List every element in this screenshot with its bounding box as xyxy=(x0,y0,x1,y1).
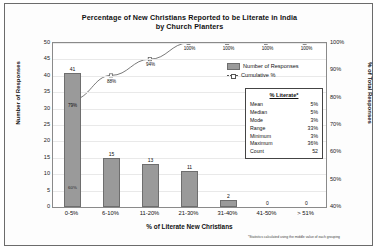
cumulative-label-0: 79% xyxy=(68,103,77,108)
y-tick-right-90: 90% xyxy=(330,66,356,72)
stats-value-5: 36% xyxy=(297,140,319,148)
bar-value-label-6: 0 xyxy=(305,200,308,206)
x-axis-title: % of Literate New Christians xyxy=(52,223,327,230)
cumulative-label-1: 88% xyxy=(107,79,116,84)
stats-label-1: Median xyxy=(250,109,297,117)
y-tick-left-0: 0 xyxy=(25,203,50,209)
statistics-table-header: % Literate* xyxy=(250,92,318,98)
chart-frame: Percentage of New Christians Reported to… xyxy=(4,3,373,246)
bar-value-label-3: 11 xyxy=(187,164,192,170)
legend-item-responses: Number of Responses xyxy=(227,62,325,71)
stats-row: Range33% xyxy=(250,124,318,132)
bar-1 xyxy=(103,158,121,207)
bar-value-label-1: 15 xyxy=(109,151,115,157)
stats-label-2: Mode xyxy=(250,117,297,125)
y-axis-left-title: Number of Responses xyxy=(15,38,21,148)
y-tick-left-35: 35 xyxy=(25,88,50,94)
x-tick-0: 0-5% xyxy=(65,210,79,216)
stats-value-3: 33% xyxy=(297,124,319,132)
stats-value-1: 5% xyxy=(297,109,319,117)
stats-row: Mean5% xyxy=(250,101,318,109)
chart-title-line-1: Percentage of New Christians Reported to… xyxy=(82,13,297,22)
cumulative-label-2: 94% xyxy=(146,62,155,67)
statistics-table-body: Mean5%Median5%Mode3%Range33%Minimum3%Max… xyxy=(250,101,318,155)
y-tick-left-25: 25 xyxy=(25,121,50,127)
cumulative-label-6: 100% xyxy=(301,46,313,51)
y-tick-left-15: 15 xyxy=(25,154,50,160)
bar-value-label-2: 13 xyxy=(148,157,154,163)
bar-2 xyxy=(142,164,160,207)
y-tick-left-10: 10 xyxy=(25,170,50,176)
stats-value-2: 3% xyxy=(297,117,319,125)
stats-row: Median5% xyxy=(250,109,318,117)
x-tick-2: 11-20% xyxy=(140,210,160,216)
stats-row: Maximum36% xyxy=(250,140,318,148)
y-tick-right-50: 50% xyxy=(330,176,356,182)
y-tick-right-80: 80% xyxy=(330,94,356,100)
x-tick-3: 21-30% xyxy=(179,210,199,216)
legend-bar-swatch-icon xyxy=(227,63,240,70)
y-axis-left: 05101520253035404550 xyxy=(25,42,50,208)
bar-3 xyxy=(181,171,199,207)
bar-value-label-5: 0 xyxy=(266,200,269,206)
stats-row: Minimum3% xyxy=(250,132,318,140)
y-tick-right-40: 40% xyxy=(330,203,356,209)
chart-title: Percentage of New Christians Reported to… xyxy=(5,13,374,31)
gridline xyxy=(53,43,326,44)
stats-label-3: Range xyxy=(250,124,297,132)
stats-value-0: 5% xyxy=(297,101,319,109)
cumulative-label-4: 100% xyxy=(223,46,235,51)
y-tick-left-30: 30 xyxy=(25,105,50,111)
y-tick-left-20: 20 xyxy=(25,137,50,143)
stats-label-5: Maximum xyxy=(250,140,297,148)
cumulative-label-5: 100% xyxy=(262,46,274,51)
stats-label-0: Mean xyxy=(250,101,297,109)
y-tick-left-45: 45 xyxy=(25,55,50,61)
y-tick-right-70: 70% xyxy=(330,121,356,127)
chart-legend: Number of Responses Cumulative % xyxy=(227,62,325,80)
chart-title-line-2: by Church Planters xyxy=(156,22,224,31)
stats-value-4: 3% xyxy=(297,132,319,140)
bar-4 xyxy=(220,200,238,207)
y-tick-left-50: 50 xyxy=(25,39,50,45)
x-tick-4: 31-40% xyxy=(218,210,238,216)
statistics-table: % Literate* Mean5%Median5%Mode3%Range33%… xyxy=(245,88,323,159)
y-tick-right-60: 60% xyxy=(330,148,356,154)
stats-label-6: Count xyxy=(250,148,297,156)
cumulative-label-3: 100% xyxy=(184,46,196,51)
legend-item-cumulative: Cumulative % xyxy=(227,71,325,80)
bar-value-label-4: 2 xyxy=(227,193,230,199)
y-tick-left-5: 5 xyxy=(25,187,50,193)
x-axis-tick-labels: 0-5%6-10%11-20%21-30%31-40%41-50%> 51% xyxy=(52,210,327,222)
x-tick-1: 6-10% xyxy=(102,210,119,216)
x-tick-6: > 51% xyxy=(297,210,314,216)
y-tick-right-100: 100% xyxy=(330,39,356,45)
legend-label-cumulative: Cumulative % xyxy=(241,71,276,80)
stats-value-6: 52 xyxy=(297,148,319,156)
stats-row: Count52 xyxy=(250,148,318,156)
legend-line-swatch-icon xyxy=(227,73,238,78)
gridline xyxy=(53,59,326,60)
y-axis-right: 40%50%60%70%80%90%100% xyxy=(330,42,356,208)
legend-label-responses: Number of Responses xyxy=(243,62,299,71)
x-tick-5: 41-50% xyxy=(257,210,277,216)
bar-value-label-0: 41 xyxy=(70,66,76,72)
y-axis-right-title: % of Total Responses xyxy=(367,38,373,148)
stats-row: Mode3% xyxy=(250,117,318,125)
chart-footnote: *Statistics calculated using the middle … xyxy=(248,235,376,239)
stats-label-4: Minimum xyxy=(250,132,297,140)
y-tick-left-40: 40 xyxy=(25,72,50,78)
bar-percent-label-0: 60% xyxy=(68,185,77,190)
